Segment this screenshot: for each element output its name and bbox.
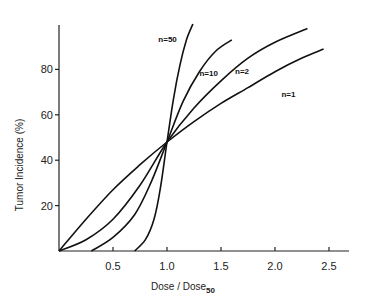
y-tick-label: 20 bbox=[41, 200, 53, 212]
y-tick-label: 40 bbox=[41, 154, 53, 166]
x-axis-title: Dose / Dose50 bbox=[151, 281, 215, 295]
x-tick-label: 1.5 bbox=[213, 260, 228, 272]
x-tick-label: 0.5 bbox=[105, 260, 120, 272]
y-tick-label: 60 bbox=[41, 109, 53, 121]
y-ticks: 20406080 bbox=[41, 63, 59, 211]
curve-label-n-10: n=10 bbox=[199, 69, 218, 78]
x-axis-title-main: Dose / Dose bbox=[151, 281, 206, 292]
curve-n-50 bbox=[135, 24, 193, 251]
curve-label-n-1: n=1 bbox=[281, 90, 296, 99]
x-tick-label: 2.5 bbox=[321, 260, 336, 272]
dose-response-chart: 0.51.01.52.02.5 20406080 n=1n=2n=10n=50 … bbox=[0, 0, 368, 302]
x-axis-title-subscript: 50 bbox=[206, 286, 215, 295]
x-tick-label: 2.0 bbox=[267, 260, 282, 272]
y-axis-title: Tumor Incidence (%) bbox=[14, 119, 25, 211]
curve-label-n-2: n=2 bbox=[235, 67, 250, 76]
curve-n-1 bbox=[59, 49, 324, 251]
curves bbox=[59, 24, 324, 251]
x-tick-label: 1.0 bbox=[159, 260, 174, 272]
y-tick-label: 80 bbox=[41, 63, 53, 75]
axes bbox=[59, 25, 349, 251]
curve-n-2 bbox=[59, 29, 307, 252]
curve-label-n-50: n=50 bbox=[158, 35, 177, 44]
